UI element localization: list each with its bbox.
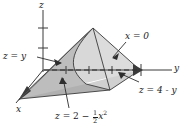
parabola-const: 2 <box>73 111 79 121</box>
parabola-fraction-one-half: 12 <box>93 110 98 124</box>
label-plane-z-equals-4-minus-y: z = 4 - y <box>139 86 177 95</box>
x-axis-label: x <box>16 105 21 114</box>
fraction-denominator: 2 <box>93 118 98 125</box>
z-axis-label: z <box>39 1 44 10</box>
parabola-exponent: 2 <box>103 109 107 116</box>
label-plane-x-equals-zero: x = 0 <box>125 32 149 41</box>
figure-container: z y x z = y x = 0 z = 4 - y z = 2 − 12x2 <box>0 0 183 130</box>
label-plane-z-equals-y: z = y <box>3 52 26 61</box>
y-axis-label: y <box>174 64 179 73</box>
label-surface-parabolic-cylinder: z = 2 − 12x2 <box>55 110 107 124</box>
